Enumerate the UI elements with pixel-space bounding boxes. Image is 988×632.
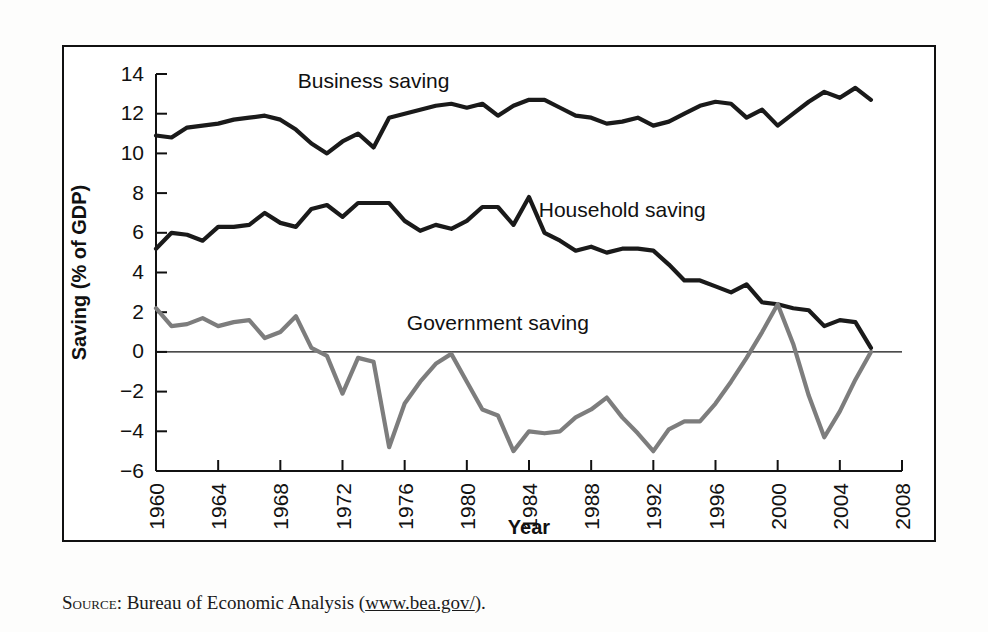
x-tick-label: 1960 bbox=[145, 483, 168, 530]
x-tick-label: 1988 bbox=[580, 483, 603, 530]
y-tick-label: −6 bbox=[120, 459, 144, 482]
y-axis-ticks bbox=[156, 74, 167, 471]
y-tick-label: 6 bbox=[132, 220, 144, 243]
source-caption: Source: Bureau of Economic Analysis (www… bbox=[62, 592, 942, 614]
y-tick-label: −2 bbox=[120, 379, 144, 402]
caption-source-word: Source: bbox=[62, 592, 122, 613]
caption-body: Bureau of Economic Analysis ( bbox=[122, 592, 365, 613]
y-tick-label: 10 bbox=[121, 141, 144, 164]
figure-container: −6−4−202468101214 1960196419681972197619… bbox=[0, 0, 988, 632]
y-tick-label: 14 bbox=[121, 62, 145, 85]
x-tick-label: 2000 bbox=[767, 483, 790, 530]
series-line-business-saving bbox=[156, 88, 871, 154]
x-tick-label: 1972 bbox=[332, 483, 355, 530]
y-tick-label: 12 bbox=[121, 101, 144, 124]
plot-area: −6−4−202468101214 1960196419681972197619… bbox=[64, 47, 934, 540]
x-tick-label: 2008 bbox=[891, 483, 914, 530]
x-tick-label: 1968 bbox=[269, 483, 292, 530]
y-tick-label: 8 bbox=[132, 181, 144, 204]
series-label-household-saving: Household saving bbox=[539, 198, 706, 221]
y-tick-label: −4 bbox=[120, 419, 144, 442]
x-tick-label: 1976 bbox=[394, 483, 417, 530]
y-tick-label: 4 bbox=[132, 260, 144, 283]
x-tick-label: 1964 bbox=[207, 483, 230, 530]
x-axis-title: Year bbox=[508, 516, 550, 538]
x-tick-label: 1996 bbox=[705, 483, 728, 530]
y-tick-label: 2 bbox=[132, 300, 144, 323]
series-label-government-saving: Government saving bbox=[407, 311, 589, 334]
x-tick-label: 1980 bbox=[456, 483, 479, 530]
caption-suffix: ). bbox=[475, 592, 486, 613]
x-tick-label: 2004 bbox=[829, 483, 852, 530]
data-series-group bbox=[156, 88, 871, 451]
series-label-business-saving: Business saving bbox=[298, 69, 450, 92]
chart-frame: −6−4−202468101214 1960196419681972197619… bbox=[62, 45, 936, 542]
x-axis-ticks bbox=[156, 460, 902, 471]
y-axis-tick-labels: −6−4−202468101214 bbox=[120, 62, 144, 482]
x-tick-label: 1992 bbox=[642, 483, 665, 530]
saving-line-chart: −6−4−202468101214 1960196419681972197619… bbox=[64, 47, 934, 540]
y-axis-title: Saving (% of GDP) bbox=[68, 185, 90, 361]
caption-url-link[interactable]: www.bea.gov/ bbox=[365, 592, 475, 613]
y-tick-label: 0 bbox=[132, 339, 144, 362]
